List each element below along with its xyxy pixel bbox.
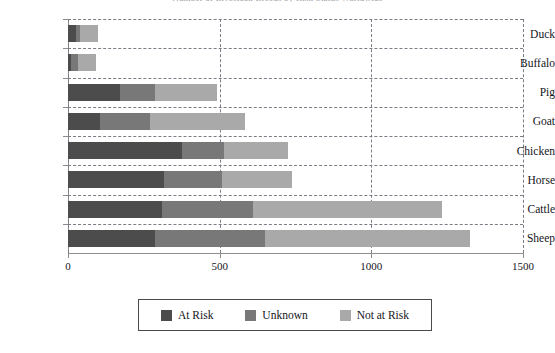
y-gridline (68, 19, 523, 20)
bar-segment (71, 54, 78, 71)
bar-segment (68, 113, 100, 130)
y-axis-tick (63, 19, 68, 20)
bar-segment (164, 171, 222, 188)
x-axis-tick-label: 500 (211, 260, 228, 272)
x-axis-tick-label: 1500 (512, 260, 534, 272)
bar-segment (155, 230, 265, 247)
y-axis-tick (63, 107, 68, 108)
legend-item[interactable]: Unknown (245, 309, 307, 321)
x-gridline (523, 19, 524, 253)
legend-swatch-icon (245, 310, 256, 321)
x-axis-tick (220, 253, 221, 258)
y-axis-tick (63, 78, 68, 79)
y-axis-category-label: Horse (493, 174, 555, 186)
legend-swatch-icon (340, 310, 351, 321)
x-axis-line (68, 253, 524, 254)
chart-title: Number of Livestock Breeds by Risk Statu… (0, 0, 555, 2)
y-gridline (68, 195, 523, 196)
x-axis-tick-label: 0 (65, 260, 71, 272)
bar-segment (224, 142, 288, 159)
y-axis-category-label: Duck (493, 28, 555, 40)
bar-segment (100, 113, 150, 130)
y-axis-tick (63, 224, 68, 225)
y-axis-category-label: Cattle (493, 203, 555, 215)
y-axis-category-label: Buffalo (493, 57, 555, 69)
bar-segment (68, 142, 182, 159)
y-gridline (68, 136, 523, 137)
y-axis-category-label: Sheep (493, 232, 555, 244)
y-axis-tick (63, 165, 68, 166)
bar-segment (120, 84, 155, 101)
plot-area (68, 19, 523, 253)
y-gridline (68, 165, 523, 166)
x-axis-tick (68, 253, 69, 258)
bar-segment (68, 25, 76, 42)
legend-label: Unknown (262, 309, 307, 321)
bar-segment (68, 230, 155, 247)
y-axis-category-label: Chicken (493, 145, 555, 157)
legend-item[interactable]: Not at Risk (340, 309, 409, 321)
legend-item[interactable]: At Risk (161, 309, 213, 321)
bar-segment (222, 171, 293, 188)
bar-segment (155, 84, 217, 101)
legend-label: At Risk (178, 309, 213, 321)
y-axis-category-label: Pig (493, 86, 555, 98)
y-gridline (68, 224, 523, 225)
x-axis-tick-label: 1000 (360, 260, 382, 272)
y-axis-category-label: Goat (493, 115, 555, 127)
bar-segment (162, 201, 253, 218)
bar-segment (265, 230, 470, 247)
bar-segment (68, 84, 120, 101)
bar-segment (68, 201, 162, 218)
y-gridline (68, 78, 523, 79)
bar-segment (78, 54, 96, 71)
y-axis-tick (63, 48, 68, 49)
x-axis-tick (371, 253, 372, 258)
x-axis-tick (523, 253, 524, 258)
bar-segment (80, 25, 98, 42)
y-gridline (68, 107, 523, 108)
stacked-bar-chart: Number of Livestock Breeds by Risk Statu… (0, 0, 555, 353)
bar-segment (182, 142, 224, 159)
bar-segment (253, 201, 442, 218)
bar-segment (150, 113, 245, 130)
y-gridline (68, 48, 523, 49)
legend-label: Not at Risk (357, 309, 409, 321)
bar-segment (68, 171, 164, 188)
y-axis-tick (63, 136, 68, 137)
legend-swatch-icon (161, 310, 172, 321)
y-axis-tick (63, 195, 68, 196)
chart-legend: At RiskUnknownNot at Risk (138, 299, 432, 331)
